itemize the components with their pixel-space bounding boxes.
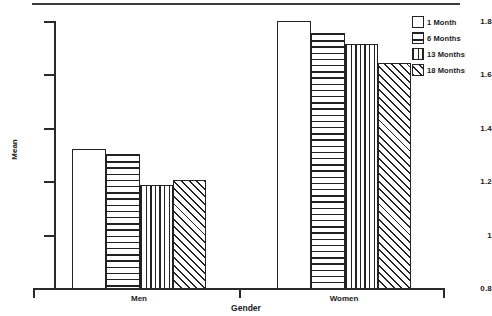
bar-women-1-month [277,21,311,290]
y-axis-tick-label: 1.4 [450,124,492,133]
bar-men-13-months [140,185,173,290]
x-axis-tick [239,289,241,298]
y-axis-tick-label: 1 [450,231,492,240]
swatch-diagonal-hatch-icon [412,64,424,76]
y-axis-tick-label: 1.2 [450,177,492,186]
legend-item-6-months[interactable]: 6 Months [412,30,492,46]
bar-women-13-months [345,44,378,290]
y-axis-line [54,21,56,290]
header-divider-rule [32,3,460,5]
x-axis-group-label-women: Women [314,294,374,303]
swatch-horizontal-lines-icon [412,32,424,44]
bar-women-18-months [378,63,411,290]
legend-item-label: 6 Months [427,34,461,43]
swatch-blank-icon [412,16,424,28]
y-axis-title: Mean [10,130,19,170]
legend-item-label: 13 Months [427,50,465,59]
y-axis-tick [44,21,55,23]
legend-item-13-months[interactable]: 13 Months [412,46,492,62]
y-axis-tick [44,235,55,237]
y-axis-tick [44,181,55,183]
x-axis-title: Gender [0,303,492,313]
y-axis-tick [44,74,55,76]
x-axis-tick [33,289,35,298]
y-axis-tick-label: 0.8 [450,284,492,293]
x-axis-group-label-men: Men [109,294,169,303]
x-axis-tick [443,289,445,298]
legend-item-18-months[interactable]: 18 Months [412,62,492,78]
bar-women-6-months [311,33,345,290]
swatch-vertical-lines-icon [412,48,424,60]
chart-legend: 1 Month 6 Months 13 Months 18 Months [412,14,492,78]
bar-men-6-months [106,154,140,290]
legend-item-1-month[interactable]: 1 Month [412,14,492,30]
legend-item-label: 18 Months [427,66,465,75]
bar-men-18-months [173,180,206,290]
bar-men-1-month [72,149,106,290]
legend-item-label: 1 Month [427,18,456,27]
y-axis-tick [44,128,55,130]
